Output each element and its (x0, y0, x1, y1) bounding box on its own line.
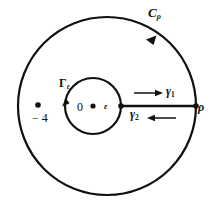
origin-dot (90, 103, 95, 108)
label-outer-circle-subscript: ρ (157, 12, 161, 21)
label-inner-circle-base: Γ (59, 76, 67, 90)
contour-diagram: Cρ Γε 0 ε γ1 γ2 ρ − 4 (0, 0, 217, 207)
pole-dot-minus-four (35, 102, 41, 108)
label-gamma-two-subscript: 2 (135, 113, 139, 122)
label-pole-minus-four: − 4 (32, 112, 48, 124)
label-gamma-one: γ1 (166, 85, 175, 99)
gamma1-arrowhead-icon (155, 90, 163, 96)
label-origin: 0 (77, 101, 83, 113)
label-outer-circle-base: C (148, 5, 157, 20)
label-outer-circle: Cρ (148, 6, 161, 21)
label-inner-circle: Γε (59, 77, 70, 91)
gamma2-arrowhead-icon (147, 115, 155, 121)
label-rho: ρ (198, 101, 204, 113)
outer-circle-arrowhead-icon (146, 36, 157, 46)
diagram-canvas (0, 0, 217, 207)
label-gamma-two: γ2 (130, 108, 139, 122)
cut-start-dot-epsilon (118, 103, 124, 109)
label-epsilon: ε (104, 102, 108, 111)
label-gamma-one-subscript: 1 (171, 90, 175, 99)
label-inner-circle-subscript: ε (67, 82, 70, 91)
